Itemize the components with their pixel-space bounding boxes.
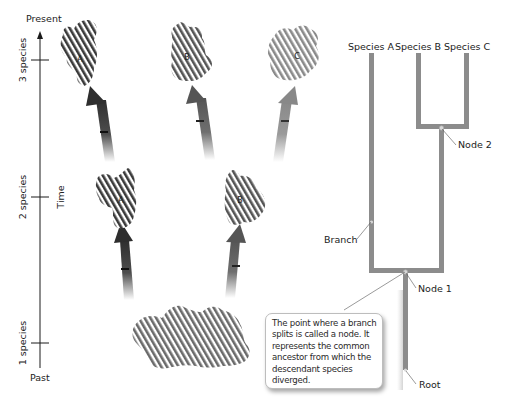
node-1-dot-icon[interactable] — [403, 270, 407, 274]
root-stem[interactable] — [403, 271, 408, 370]
arrow-to-present-b-icon — [186, 85, 215, 160]
blob-present-a: A — [61, 20, 97, 86]
branch-species-a[interactable] — [369, 53, 374, 272]
branch-species-c[interactable] — [464, 53, 469, 129]
branch-species-b[interactable] — [416, 53, 421, 129]
time-axis: Present Past 3 species 2 species 1 speci… — [17, 13, 66, 383]
time-axis-title: Time — [55, 185, 66, 209]
evolution-diagram: Present Past 3 species 2 species 1 speci… — [0, 0, 507, 408]
node-1-label: Node 1 — [418, 283, 452, 294]
callout-text: The point where a branch splits is calle… — [272, 318, 376, 385]
blob-label: B — [184, 53, 190, 62]
tick-label-2-species: 2 species — [17, 175, 28, 220]
arrow-to-middle-b-icon — [225, 224, 246, 298]
blob-label: C — [294, 52, 300, 61]
blob-label: A — [77, 55, 83, 64]
blob-ancestor — [132, 306, 249, 369]
blob-present-c: C — [268, 25, 319, 80]
blob-middle-a: A — [96, 168, 136, 228]
blob-present-b: B — [171, 22, 212, 81]
tip-label-species-a: Species A — [348, 41, 395, 52]
tick-label-3-species: 3 species — [17, 38, 28, 83]
present-label: Present — [26, 13, 62, 24]
root-dot-icon — [404, 368, 407, 371]
arrow-to-present-a-icon — [86, 86, 115, 162]
root-shadow — [397, 290, 403, 390]
arrow-to-present-c-icon — [273, 86, 298, 162]
tip-label-species-c: Species C — [444, 41, 491, 52]
branch-node-2-stem[interactable] — [439, 127, 444, 272]
cladogram-lines — [369, 53, 469, 370]
tick-label-1-species: 1 species — [17, 321, 28, 366]
node-2-dot-icon[interactable] — [439, 126, 443, 130]
node-2-label: Node 2 — [458, 139, 492, 150]
root-label: Root — [419, 379, 441, 390]
arrow-to-middle-a-icon — [114, 222, 134, 300]
arrow-up-icon — [37, 31, 43, 39]
blob-label: A — [118, 196, 124, 205]
branch-label: Branch — [324, 234, 358, 245]
past-label: Past — [30, 372, 50, 383]
tip-label-species-b: Species B — [395, 41, 441, 52]
node-explanation-callout: The point where a branch splits is calle… — [265, 313, 383, 389]
blob-middle-b: B — [225, 170, 266, 225]
blob-label: B — [237, 196, 243, 205]
